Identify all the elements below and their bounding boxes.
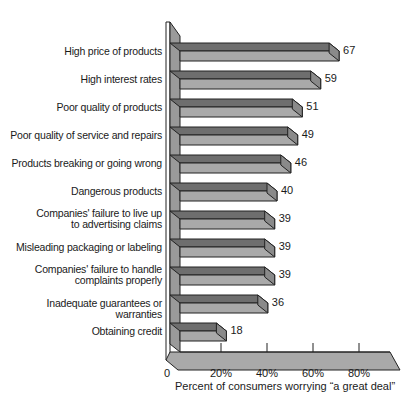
x-axis-label: Percent of consumers worrying “a great d…	[175, 380, 395, 392]
bar-value-label: 39	[279, 213, 291, 224]
bar-front-face	[180, 247, 275, 257]
bar-chart: 020%40%60%80%67High price of products59H…	[0, 0, 414, 414]
x-tick-label: 20%	[210, 368, 232, 379]
category-label: Products breaking or going wrong	[11, 158, 162, 169]
bar-value-label: 59	[325, 73, 337, 84]
bar-front-face	[180, 303, 268, 313]
category-label: High price of products	[64, 46, 162, 57]
bar-value-label: 40	[281, 185, 293, 196]
bar-front-face	[180, 107, 302, 117]
bar-top-face	[170, 295, 268, 303]
bar-value-label: 36	[272, 297, 284, 308]
x-tick-label: 60%	[302, 368, 324, 379]
bar-front-face	[180, 163, 291, 173]
bar-front-face	[180, 135, 298, 145]
bar-front-face	[180, 191, 277, 201]
bar-value-label: 18	[230, 325, 242, 336]
category-label: Companies' failure to live up to adverti…	[36, 208, 162, 230]
x-tick-label: 80%	[348, 368, 370, 379]
bar-value-label: 39	[279, 269, 291, 280]
bar-front-face	[180, 79, 321, 89]
bar-value-label: 39	[279, 241, 291, 252]
bar-top-face	[170, 155, 291, 163]
category-label: Poor quality of service and repairs	[10, 130, 162, 141]
bar-top-face	[170, 127, 298, 135]
bar-top-face	[170, 239, 275, 247]
x-tick-label: 0	[164, 368, 170, 379]
wall-edge	[166, 22, 170, 360]
category-label: Inadequate guarantees or warranties	[0, 298, 162, 320]
bar-front-face	[180, 275, 275, 285]
bar-top-face	[170, 71, 321, 79]
category-label: Misleading packaging or labeling	[16, 242, 162, 253]
bar-top-face	[170, 99, 302, 107]
bar-value-label: 67	[343, 45, 355, 56]
category-label: Poor quality of products	[56, 102, 162, 113]
bar-value-label: 51	[306, 101, 318, 112]
bar-top-face	[170, 43, 339, 51]
category-label: High interest rates	[81, 74, 162, 85]
category-label: Obtaining credit	[92, 326, 162, 337]
category-label: Dangerous products	[71, 186, 162, 197]
bar-top-face	[170, 211, 275, 219]
bar-value-label: 46	[295, 157, 307, 168]
x-tick-label: 40%	[256, 368, 278, 379]
bar-front-face	[180, 219, 275, 229]
bar-top-face	[170, 267, 275, 275]
category-label: Companies' failure to handle complaints …	[35, 264, 162, 286]
bar-top-face	[170, 183, 277, 191]
bar-front-face	[180, 51, 339, 61]
bar-value-label: 49	[302, 129, 314, 140]
